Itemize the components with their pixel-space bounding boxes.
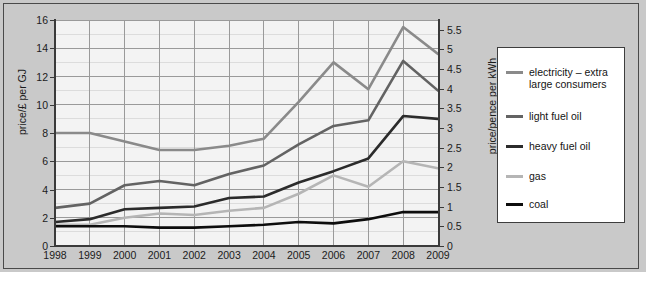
x-axis-tick-label: 2009 [418,249,458,261]
legend-item[interactable]: gas [506,170,624,182]
y-axis-left-tick-mark [50,77,54,78]
legend: electricity – extra large consumerslight… [497,47,625,223]
y-axis-left-tick-label: 2 [18,213,48,223]
plot-canvas [55,20,438,246]
y-axis-right-tick-label: 3.5 [447,103,462,113]
y-axis-right-tick-label: 2 [447,162,453,172]
series-line [55,27,438,150]
y-axis-left-tick-label: 16 [18,15,48,25]
legend-item-label: electricity – extra large consumers [529,66,624,90]
y-axis-right-tick-label: 4 [447,84,453,94]
legend-item-label: light fuel oil [529,110,624,122]
legend-item[interactable]: heavy fuel oil [506,140,624,152]
y-axis-left-tick-label: 4 [18,185,48,195]
y-axis-left-tick-mark [50,190,54,191]
series-lines [55,27,438,228]
y-axis-right-tick-mark [440,89,444,90]
y-axis-left-tick-mark [50,161,54,162]
y-axis-left-tick-label: 14 [18,43,48,53]
y-axis-left-title: price/£ per GJ [16,54,28,150]
y-axis-left-tick-mark [50,246,54,247]
y-axis-right-tick-label: 5 [447,44,453,54]
y-axis-left-tick-mark [50,20,54,21]
y-axis-left-tick-mark [50,218,54,219]
y-axis-left-tick-mark [50,48,54,49]
y-axis-right-tick-mark [440,30,444,31]
legend-swatch-icon [506,145,523,148]
y-axis-right-line [438,19,440,247]
y-axis-right-tick-mark [440,148,444,149]
y-axis-right-tick-mark [440,108,444,109]
y-axis-right-tick-label: 1.5 [447,182,462,192]
legend-swatch-icon [506,203,523,206]
legend-item[interactable]: coal [506,198,624,210]
legend-item[interactable]: electricity – extra large consumers [506,66,624,90]
y-axis-right-tick-mark [440,128,444,129]
y-axis-right-tick-mark [440,187,444,188]
caption-strip [0,272,646,290]
x-axis-line [54,245,440,247]
y-axis-right-tick-mark [440,69,444,70]
y-axis-right-tick-label: 0.5 [447,221,462,231]
y-axis-right-tick-mark [440,167,444,168]
y-axis-right-tick-mark [440,207,444,208]
legend-swatch-icon [506,175,523,178]
figure: 0246810121416 00.511.522.533.544.555.5 1… [0,0,646,290]
y-axis-right-tick-mark [440,226,444,227]
y-axis-left-tick-label: 6 [18,156,48,166]
y-axis-right-tick-label: 1 [447,202,453,212]
y-axis-right-tick-label: 3 [447,123,453,133]
y-axis-right-tick-label: 4.5 [447,64,462,74]
legend-swatch-icon [506,71,523,74]
y-axis-left-line [54,19,56,247]
y-axis-left-tick-mark [50,105,54,106]
plot-area [55,20,438,246]
caption-text [6,275,406,287]
y-axis-right-tick-label: 5.5 [447,25,462,35]
y-axis-left-tick-mark [50,133,54,134]
y-axis-right-tick-mark [440,49,444,50]
legend-swatch-icon [506,115,523,118]
y-axis-right-tick-mark [440,246,444,247]
series-line [55,61,438,208]
legend-item-label: heavy fuel oil [529,140,624,152]
legend-item-label: coal [529,198,624,210]
legend-item[interactable]: light fuel oil [506,110,624,122]
y-axis-right-tick-label: 2.5 [447,143,462,153]
legend-item-label: gas [529,170,624,182]
